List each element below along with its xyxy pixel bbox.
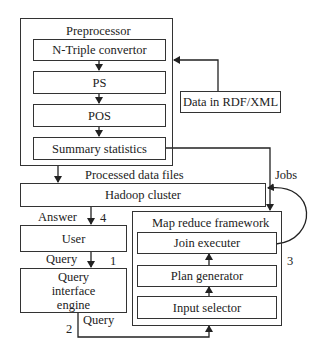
plan-generator-box: Plan generator: [137, 265, 277, 287]
answer-label: Answer: [38, 210, 77, 225]
step-3-label: 3: [287, 254, 293, 269]
step-2-label: 2: [66, 322, 72, 337]
query-label-1: Query: [46, 252, 77, 267]
rdf-xml-source-box: Data in RDF/XML: [180, 91, 281, 113]
input-selector-box: Input selector: [137, 296, 277, 319]
ntriple-convertor-box: N-Triple convertor: [33, 39, 166, 61]
step-1-label: 1: [110, 254, 116, 269]
join-executer-box: Join executer: [137, 232, 277, 254]
processed-data-files-label: Processed data files: [85, 168, 184, 183]
ps-box: PS: [33, 71, 166, 94]
user-box: User: [20, 225, 127, 252]
pos-box: POS: [33, 104, 166, 127]
query-label-2: Query: [83, 313, 114, 328]
preprocessor-title: Preprocessor: [66, 24, 131, 39]
map-reduce-title: Map reduce framework: [152, 216, 269, 231]
summary-statistics-box: Summary statistics: [33, 137, 166, 160]
jobs-label: Jobs: [275, 168, 297, 183]
step-4-label: 4: [100, 211, 106, 226]
query-interface-engine-box: Query interface engine: [20, 268, 127, 313]
hadoop-cluster-box: Hadoop cluster: [20, 183, 266, 207]
